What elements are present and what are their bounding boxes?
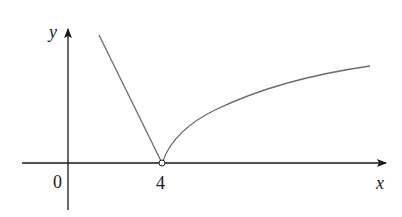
right-curve-piece [163, 66, 370, 161]
open-circle-marker [159, 160, 165, 166]
chart-canvas: y x 0 4 [0, 0, 402, 217]
origin-label: 0 [53, 172, 62, 192]
y-axis-label: y [47, 22, 57, 42]
tick-label-4: 4 [156, 173, 165, 193]
x-axis-label: x [375, 173, 384, 193]
left-linear-piece [99, 35, 161, 161]
